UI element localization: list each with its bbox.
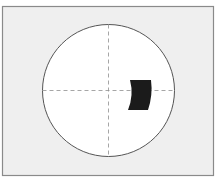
target-diagram bbox=[0, 0, 217, 185]
dark-marker-shape bbox=[128, 80, 152, 110]
diagram-canvas bbox=[0, 0, 217, 185]
